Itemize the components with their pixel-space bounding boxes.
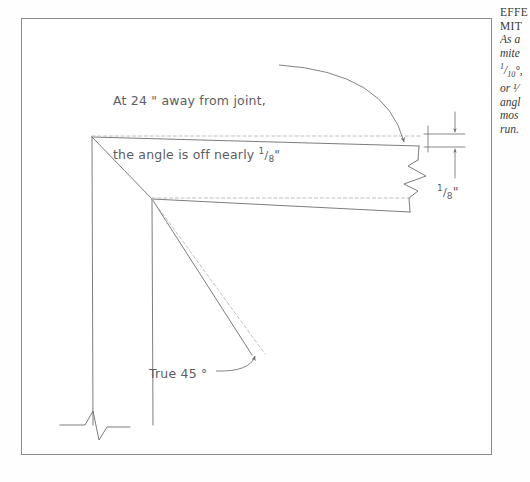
break-symbol-right xyxy=(404,160,426,198)
leader-arrow-to-joint xyxy=(279,65,404,142)
leader-arrow-to-angle xyxy=(216,356,255,371)
break-symbol-bottom xyxy=(60,411,130,440)
annotation-dimension-unit: " xyxy=(453,184,459,199)
annotation-offset-note-line2-unit: " xyxy=(274,147,280,162)
caption-body-line6: mos xyxy=(500,109,530,123)
dimension-group xyxy=(424,112,465,178)
annotation-offset-note-line2-text: the angle is off nearly xyxy=(113,147,259,162)
board-v-left-edge xyxy=(92,137,93,425)
page-root: At 24 " away from joint, the angle is of… xyxy=(0,0,530,482)
board-h-right-end-bottom xyxy=(409,198,410,212)
ref-line-miter-true xyxy=(152,199,265,354)
miter-line-actual-lower xyxy=(152,199,252,355)
annotation-true-45: True 45 ° xyxy=(149,365,207,382)
annotation-dimension-one-eighth: 1/8" xyxy=(437,180,459,205)
fraction-one-eighth-dimension: 1/8 xyxy=(437,180,453,205)
caption-heading-line1: EFFE xyxy=(500,6,530,20)
caption-frac-num: 1 xyxy=(500,62,504,71)
caption-column: EFFE MIT As a mite 1/10°, or ¹⁄ angl mos… xyxy=(500,6,530,146)
caption-frac-post: °, xyxy=(515,64,522,76)
caption-body-line2: mite xyxy=(500,47,530,61)
board-v-right-edge xyxy=(152,199,153,425)
fraction-one-eighth: 1/8 xyxy=(259,143,275,168)
caption-heading-line2: MIT xyxy=(500,20,530,34)
caption-body-line3: 1/10°, xyxy=(500,60,530,82)
board-h-right-end-top xyxy=(418,146,419,160)
caption-frac-den: 10 xyxy=(507,70,515,79)
caption-body-line5: angl xyxy=(500,96,530,110)
annotation-offset-note-line1: At 24 " away from joint, xyxy=(113,92,280,109)
caption-body-line7: run. xyxy=(500,123,530,137)
caption-body-line1: As a xyxy=(500,33,530,47)
annotation-offset-note: At 24 " away from joint, the angle is of… xyxy=(113,58,280,202)
annotation-offset-note-line2: the angle is off nearly 1/8" xyxy=(113,143,280,168)
caption-body-line4: or ¹⁄ xyxy=(500,82,530,96)
